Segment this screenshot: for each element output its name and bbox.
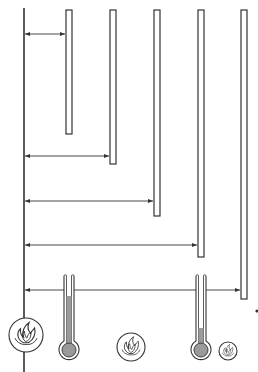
rods-group: [66, 10, 247, 299]
rod-2: [110, 10, 116, 164]
rod-1: [66, 10, 72, 134]
flame-icon-3: [219, 342, 237, 360]
flame-icon-2: [117, 333, 145, 361]
thermometer-icon-2: [191, 275, 211, 360]
mercury-bulb: [194, 343, 208, 357]
mercury-column: [67, 296, 72, 350]
diagram-svg: [0, 0, 258, 372]
rod-3: [154, 10, 160, 216]
flame-circle: [9, 318, 43, 352]
marker-dot: [255, 309, 258, 312]
flame-circle: [219, 342, 237, 360]
mercury-bulb: [62, 343, 76, 357]
flame-circle: [117, 333, 145, 361]
diagram-canvas: [0, 0, 258, 372]
dot-marker: [255, 309, 258, 312]
flame-icon-1: [9, 318, 43, 352]
thermometer-icon-1: [59, 275, 79, 360]
distance-arrows-group: [25, 34, 240, 290]
rod-4: [198, 10, 204, 257]
rod-5: [241, 10, 247, 299]
